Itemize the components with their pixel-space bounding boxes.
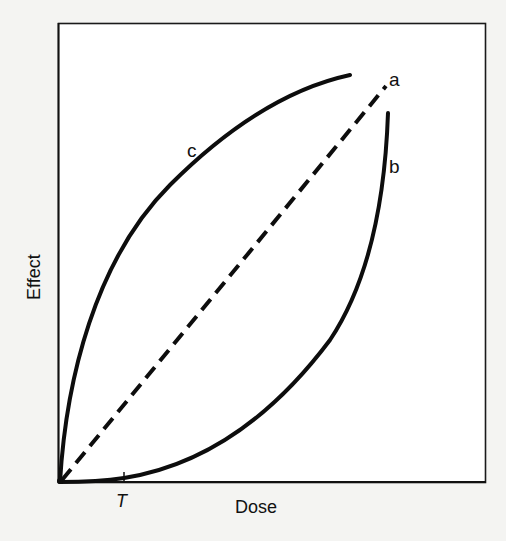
label-curve-b: b [389, 156, 400, 177]
dose-effect-chart: a b c T Dose Effect [0, 0, 506, 541]
plot-frame [59, 24, 486, 483]
x-axis-title: Dose [235, 497, 277, 517]
label-threshold: T [116, 491, 129, 511]
label-curve-a: a [389, 69, 400, 90]
origin-point [57, 478, 63, 484]
y-axis-title: Effect [24, 254, 44, 300]
label-curve-c: c [187, 140, 197, 161]
